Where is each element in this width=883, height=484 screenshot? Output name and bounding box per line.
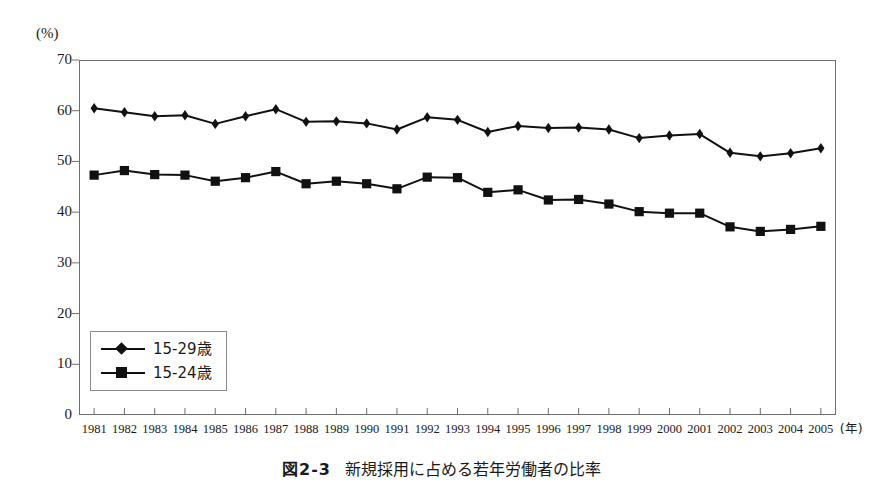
y-axis-tick-label: 30 [6, 255, 72, 270]
caption-number: 図2-3 [282, 460, 331, 479]
x-axis-tick-label: 1981 [82, 422, 107, 436]
x-axis-tick-label: 1986 [233, 422, 258, 436]
x-axis-tick-label: 2003 [748, 422, 773, 436]
diamond-marker-icon [101, 341, 145, 357]
y-axis-tick-label: 70 [6, 52, 72, 67]
legend-item-1: 15-24歳 [101, 361, 212, 385]
x-axis-tick-labels: 1981198219831984198519861987198819891990… [0, 422, 883, 444]
chart-legend: 15-29歳 15-24歳 [90, 331, 227, 391]
x-axis-tick-label: 1990 [354, 422, 379, 436]
x-axis-tick-label: 1989 [324, 422, 349, 436]
y-axis-tick-label: 20 [6, 306, 72, 321]
figure-caption: 図2-3新規採用に占める若年労働者の比率 [0, 456, 883, 480]
legend-item-0: 15-29歳 [101, 337, 212, 361]
square-marker-icon [101, 365, 145, 381]
figure-container: (%) 706050403020100 19811982198319841985… [0, 0, 883, 484]
y-axis-tick-label: 60 [6, 103, 72, 118]
y-axis-tick-label: 0 [6, 407, 72, 422]
x-axis-unit-label: (年) [840, 422, 863, 436]
x-axis-tick-label: 1983 [142, 422, 167, 436]
x-axis-tick-label: 1992 [415, 422, 440, 436]
x-axis-tick-label: 1982 [112, 422, 137, 436]
x-axis-tick-label: 2004 [778, 422, 803, 436]
x-axis-tick-label: 1985 [203, 422, 228, 436]
caption-title: 新規採用に占める若年労働者の比率 [345, 460, 601, 479]
legend-item-label: 15-29歳 [153, 341, 212, 357]
x-axis-tick-label: 1994 [475, 422, 500, 436]
x-axis-tick-label: 2002 [718, 422, 743, 436]
x-axis-tick-label: 1991 [384, 422, 409, 436]
y-axis-tick-labels: 706050403020100 [0, 0, 72, 484]
x-axis-tick-label: 1997 [566, 422, 591, 436]
x-axis-tick-label: 2000 [657, 422, 682, 436]
y-axis-tick-label: 10 [6, 356, 72, 371]
x-axis-tick-label: 1998 [596, 422, 621, 436]
x-axis-tick-label: 1996 [536, 422, 561, 436]
x-axis-tick-label: 1993 [445, 422, 470, 436]
y-axis-tick-label: 40 [6, 204, 72, 219]
x-axis-tick-label: 1995 [506, 422, 531, 436]
x-axis-tick-label: 2005 [808, 422, 833, 436]
x-axis-tick-label: 1984 [172, 422, 197, 436]
x-axis-tick-label: 2001 [687, 422, 712, 436]
legend-item-label: 15-24歳 [153, 365, 212, 381]
x-axis-tick-label: 1988 [294, 422, 319, 436]
x-axis-tick-label: 1987 [263, 422, 288, 436]
x-axis-tick-label: 1999 [627, 422, 652, 436]
y-axis-tick-label: 50 [6, 153, 72, 168]
